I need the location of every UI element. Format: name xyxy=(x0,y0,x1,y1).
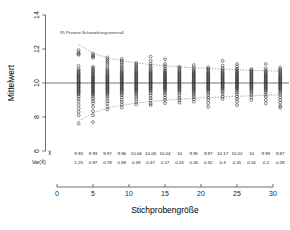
x-tick-label: 15 xyxy=(161,190,169,197)
x-tick-label: 25 xyxy=(233,190,241,197)
y-axis: 68101214 xyxy=(33,11,46,153)
chart-root: 68101214Mittelwert95 Prozent Schwankungs… xyxy=(0,0,290,230)
variance-value: 1.25 xyxy=(74,160,83,165)
variance-value: 0.28 xyxy=(276,160,285,165)
x-tick-label: 10 xyxy=(125,190,133,197)
data-point xyxy=(77,107,80,110)
data-point xyxy=(264,102,267,105)
data-point xyxy=(92,121,95,124)
variance-value: 0.26 xyxy=(190,160,199,165)
data-point xyxy=(77,114,80,117)
mean-value: 10.02 xyxy=(232,151,244,156)
data-point xyxy=(164,102,167,105)
y-tick-label: 8 xyxy=(33,115,40,119)
variance-value: 0.39 xyxy=(132,160,141,165)
data-point xyxy=(77,65,80,68)
data-point xyxy=(77,104,80,107)
mean-value: 10.06 xyxy=(145,151,157,156)
mean-value: 9.95 xyxy=(190,151,199,156)
variance-value: 0.47 xyxy=(146,160,155,165)
variance-value: 0.69 xyxy=(118,160,127,165)
data-point xyxy=(77,110,80,113)
data-point xyxy=(106,105,109,108)
x-tick-label: 5 xyxy=(91,190,95,197)
data-point xyxy=(207,105,210,108)
mean-value: 10 xyxy=(177,151,182,156)
data-point xyxy=(221,59,224,62)
mean-value: 9.93 xyxy=(89,151,98,156)
data-point xyxy=(120,106,123,109)
variance-value: 0.24 xyxy=(175,160,184,165)
interval-annotation: 95 Prozent Schwankungsintervall xyxy=(60,30,124,35)
mean-value: 9.97 xyxy=(204,151,213,156)
data-points xyxy=(77,49,282,125)
mean-value: 9.93 xyxy=(74,151,83,156)
data-point xyxy=(236,104,239,107)
data-point xyxy=(164,58,167,61)
variance-value: 0.97 xyxy=(89,160,98,165)
data-point xyxy=(149,55,152,58)
mean-value: 9.97 xyxy=(103,151,112,156)
variance-value: 0.78 xyxy=(103,160,112,165)
scatter-plot-svg: 68101214Mittelwert95 Prozent Schwankungs… xyxy=(0,0,290,230)
variance-value: 0.16 xyxy=(247,160,256,165)
mean-value: 9.87 xyxy=(276,151,285,156)
x-tick-label: 20 xyxy=(197,190,205,197)
y-axis-label: Mittelwert xyxy=(6,64,16,101)
mean-value: 10.04 xyxy=(160,151,172,156)
x-tick-label: 30 xyxy=(269,190,277,197)
x-axis-label: Stichprobengröße xyxy=(131,205,199,215)
data-point xyxy=(92,110,95,113)
data-point xyxy=(149,59,152,62)
variance-value: 0.31 xyxy=(233,160,242,165)
y-tick-label: 10 xyxy=(33,79,40,87)
y-tick-label: 12 xyxy=(33,45,40,53)
variance-value: 0.17 xyxy=(161,160,170,165)
data-point xyxy=(77,122,80,125)
y-tick-label: 14 xyxy=(33,11,40,19)
x-axis: 051015202530 xyxy=(55,184,277,197)
data-point xyxy=(92,105,95,108)
mean-value: 10.17 xyxy=(217,151,229,156)
y-tick-label: 6 xyxy=(33,149,40,153)
data-point xyxy=(207,102,210,105)
variance-value: 0.32 xyxy=(204,160,213,165)
mean-value: 10 xyxy=(249,151,254,156)
mean-value: 9.96 xyxy=(118,151,127,156)
variance-row-label: Var(X̄) xyxy=(32,159,46,165)
mean-value: 9.93 xyxy=(262,151,271,156)
mean-value: 10.06 xyxy=(131,151,143,156)
data-point xyxy=(264,63,267,66)
x-tick-label: 0 xyxy=(55,190,59,197)
data-point xyxy=(92,114,95,117)
variance-value: 0.3 xyxy=(220,160,227,165)
mean-row-label: X̄ xyxy=(48,150,52,156)
data-point xyxy=(264,99,267,102)
summary-table: X̄Var(X̄)9.931.259.930.979.970.789.960.6… xyxy=(32,150,285,165)
variance-value: 0.2 xyxy=(263,160,270,165)
